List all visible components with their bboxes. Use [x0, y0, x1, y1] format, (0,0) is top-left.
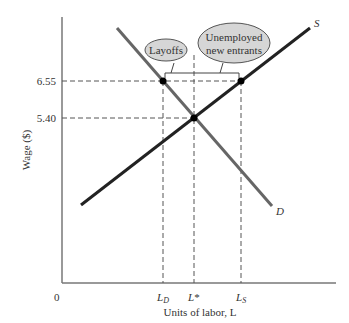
demand-label: D [275, 205, 284, 217]
point-supply-at-floor [238, 78, 245, 85]
unemployed-new-entrants-callout: Unemployed new entrants [198, 23, 270, 63]
origin-label: 0 [54, 291, 60, 303]
layoffs-callout: Layoffs [145, 39, 187, 61]
labor-market-chart: Layoffs Unemployed new entrants S D 6.55… [0, 0, 349, 323]
x-tick-LS: LS [235, 291, 246, 305]
reference-lines [62, 55, 241, 283]
point-demand-at-floor [160, 78, 167, 85]
svg-text:Unemployed: Unemployed [206, 31, 263, 43]
supply-label: S [314, 17, 320, 29]
y-tick-5-40: 5.40 [37, 112, 57, 124]
y-axis-label: Wage ($) [20, 129, 33, 170]
x-axis-label: Units of labor, L [164, 306, 237, 318]
x-tick-LD: LD [156, 291, 169, 305]
unemployment-bracket [165, 63, 239, 78]
y-tick-6-55: 6.55 [37, 75, 57, 87]
svg-text:new entrants: new entrants [206, 44, 262, 56]
x-tick-Lstar: L* [187, 291, 200, 303]
svg-text:Layoffs: Layoffs [149, 44, 183, 56]
point-equilibrium [191, 115, 198, 122]
